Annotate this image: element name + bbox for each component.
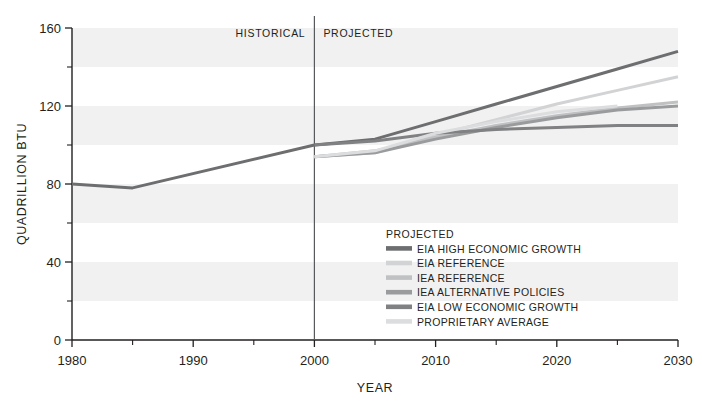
legend-label-eia-low-economic-growth: EIA LOW ECONOMIC GROWTH	[417, 301, 579, 313]
y-tick-label: 0	[54, 333, 61, 348]
legend-swatch-eia-low-economic-growth	[386, 305, 412, 310]
legend-swatch-iea-reference	[386, 275, 412, 280]
legend-label-eia-high-economic-growth: EIA HIGH ECONOMIC GROWTH	[417, 243, 581, 255]
chart-container: 04080120160198019902000201020202030YEARQ…	[0, 0, 702, 409]
x-tick-label: 1980	[58, 353, 87, 368]
x-tick-label: 1990	[179, 353, 208, 368]
x-tick-label: 2020	[542, 353, 571, 368]
period-label-projected: PROJECTED	[323, 27, 393, 39]
y-tick-label: 160	[39, 21, 61, 36]
legend-label-iea-reference: IEA REFERENCE	[417, 272, 505, 284]
series-line-historical	[72, 145, 314, 188]
y-axis-title: QUADRILLION BTU	[15, 123, 29, 245]
x-tick-label: 2030	[664, 353, 693, 368]
legend-label-eia-reference: EIA REFERENCE	[417, 257, 505, 269]
legend-label-proprietary-average: PROPRIETARY AVERAGE	[417, 316, 549, 328]
legend-label-iea-alternative-policies: IEA ALTERNATIVE POLICIES	[417, 286, 564, 298]
legend-swatch-proprietary-average	[386, 319, 412, 324]
legend-title: PROJECTED	[386, 228, 454, 240]
background-band	[72, 262, 678, 301]
background-band	[72, 184, 678, 223]
x-tick-label: 2000	[300, 353, 329, 368]
y-tick-label: 120	[39, 99, 61, 114]
legend-swatch-eia-reference	[386, 261, 412, 266]
x-tick-label: 2010	[421, 353, 450, 368]
period-label-historical: HISTORICAL	[236, 27, 306, 39]
legend-swatch-iea-alternative-policies	[386, 290, 412, 295]
x-axis-title: YEAR	[357, 381, 393, 395]
y-tick-label: 80	[47, 177, 61, 192]
y-tick-label: 40	[47, 255, 61, 270]
line-chart: 04080120160198019902000201020202030YEARQ…	[0, 0, 702, 409]
legend-swatch-eia-high-economic-growth	[386, 246, 412, 251]
